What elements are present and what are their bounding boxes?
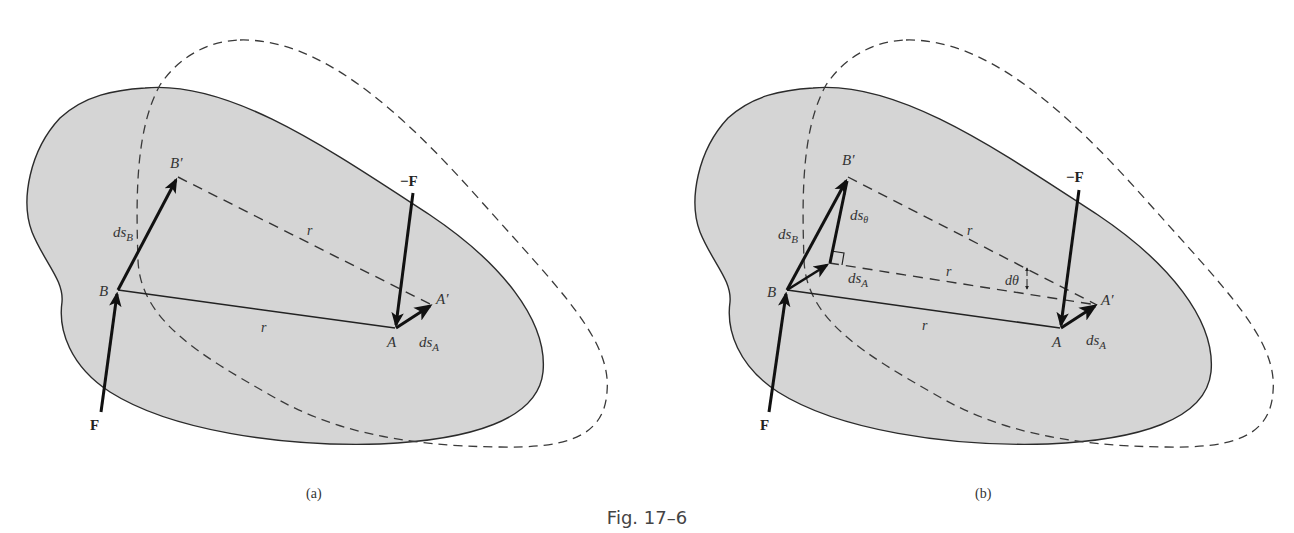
label-a-prime: A′ bbox=[1100, 292, 1114, 308]
figure-caption: Fig. 17–6 bbox=[607, 507, 687, 528]
panel-b: B B′ A A′ dsB dsA dsθ dsA dθ r r r F −F … bbox=[695, 40, 1273, 502]
panel-a-caption: (a) bbox=[306, 486, 322, 502]
label-d-theta: dθ bbox=[1005, 273, 1019, 288]
label-r-solid: r bbox=[922, 318, 928, 333]
panel-a: B B′ A A′ dsB dsA r r F −F (a) bbox=[27, 40, 607, 502]
label-a-prime: A′ bbox=[435, 291, 449, 307]
label-neg-f: −F bbox=[1066, 169, 1084, 185]
label-neg-f: −F bbox=[400, 173, 418, 189]
label-r-top: r bbox=[967, 223, 973, 238]
panel-b-caption: (b) bbox=[975, 486, 992, 502]
label-r-dashed: r bbox=[307, 223, 313, 238]
label-a: A bbox=[386, 334, 397, 350]
label-r-mid: r bbox=[946, 264, 952, 279]
figure-17-6: B B′ A A′ dsB dsA r r F −F (a) bbox=[0, 0, 1294, 533]
label-b-prime: B′ bbox=[842, 152, 855, 168]
label-b: B bbox=[767, 284, 776, 300]
label-f: F bbox=[760, 417, 769, 433]
label-a: A bbox=[1051, 334, 1062, 350]
label-b: B bbox=[99, 283, 108, 299]
label-b-prime: B′ bbox=[170, 155, 183, 171]
label-r-solid: r bbox=[261, 320, 267, 335]
label-f: F bbox=[90, 417, 99, 433]
